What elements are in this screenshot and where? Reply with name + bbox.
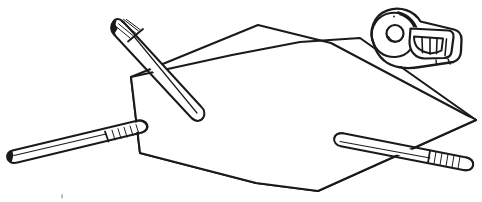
pen-middle-left (7, 120, 148, 162)
tape-dispenser (371, 8, 462, 68)
line-art-svg (0, 0, 482, 202)
illustration-canvas (0, 0, 482, 202)
ink-speck (61, 194, 63, 198)
